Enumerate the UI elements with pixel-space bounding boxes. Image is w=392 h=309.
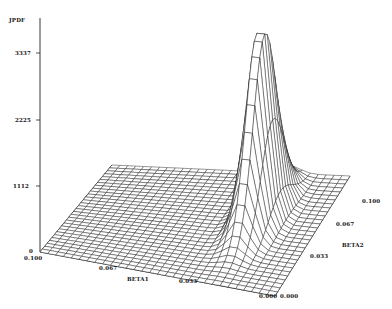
y-tick-label: 0.067 [336,221,354,227]
y-tick-label: 0.000 [280,293,298,299]
z-tick-label: 0 [29,248,33,254]
surface-mesh [40,33,350,296]
y-axis-label: BETA2 [342,242,364,248]
x-tick-label: 0.100 [24,255,42,261]
y-tick-label: 0.033 [310,253,328,259]
x-tick-label: 0.000 [259,293,277,299]
x-tick-label: 0.033 [179,278,197,284]
x-tick-label: 0.067 [99,265,117,271]
x-axis-label: BETA1 [127,276,149,282]
z-tick-label: 1112 [13,183,29,189]
z-axis-label: JPDF [8,17,25,24]
jpdf-surface-plot: JPDF 3337 2225 1112 0 0.100 0.067 BETA1 … [0,0,392,309]
z-tick-label: 3337 [15,50,31,56]
z-tick-label: 2225 [15,117,31,123]
y-tick-label: 0.100 [362,198,380,204]
